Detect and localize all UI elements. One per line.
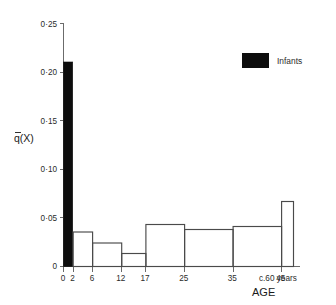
chart-container: 0 0·05 0·10 0·15 0·20 0·25 q(X) 0 2 (0, 0, 336, 305)
x-tick-label-17: 17 (141, 274, 151, 283)
bar-12-17[interactable] (122, 254, 146, 267)
x-axis-tick-labels: 0 2 6 12 17 25 35 45 c.60 (61, 274, 286, 283)
bar-17-25[interactable] (146, 225, 185, 267)
bar-45-60[interactable] (282, 202, 294, 267)
y-tick-label-010: 0·10 (41, 165, 58, 174)
y-tick-label-025: 0·25 (41, 20, 58, 29)
x-axis-ticks (64, 267, 282, 272)
legend-label-infants: Infants (277, 56, 302, 66)
bar-35-45[interactable] (233, 227, 282, 267)
age-distribution-bar-chart: 0 0·05 0·10 0·15 0·20 0·25 q(X) 0 2 (0, 0, 336, 305)
y-axis-title: q(X) (14, 132, 34, 144)
y-tick-label-0: 0 (52, 262, 57, 271)
y-tick-label-005: 0·05 (41, 214, 58, 223)
bars-group (64, 62, 294, 267)
bar-infants-0-2[interactable] (64, 62, 73, 267)
x-tick-label-35: 35 (228, 274, 238, 283)
y-tick-label-020: 0·20 (41, 68, 58, 77)
x-tick-label-0: 0 (61, 274, 66, 283)
legend-swatch-infants (242, 53, 269, 68)
y-axis-tick-labels: 0 0·05 0·10 0·15 0·20 0·25 (41, 20, 58, 272)
x-tick-label-25: 25 (179, 274, 189, 283)
legend: Infants (242, 53, 302, 68)
y-axis-ticks (60, 24, 64, 267)
x-axis-title: AGE (252, 286, 275, 298)
x-tick-label-12: 12 (116, 274, 126, 283)
x-tick-label-6: 6 (90, 274, 95, 283)
bar-2-6[interactable] (73, 232, 92, 267)
x-tick-label-2: 2 (70, 274, 75, 283)
y-axis-title-text: q(X) (14, 132, 34, 144)
y-tick-label-015: 0·15 (41, 117, 58, 126)
x-axis-end-label: c.60 years (259, 274, 297, 283)
bar-25-35[interactable] (185, 230, 234, 267)
bar-6-12[interactable] (93, 243, 122, 267)
